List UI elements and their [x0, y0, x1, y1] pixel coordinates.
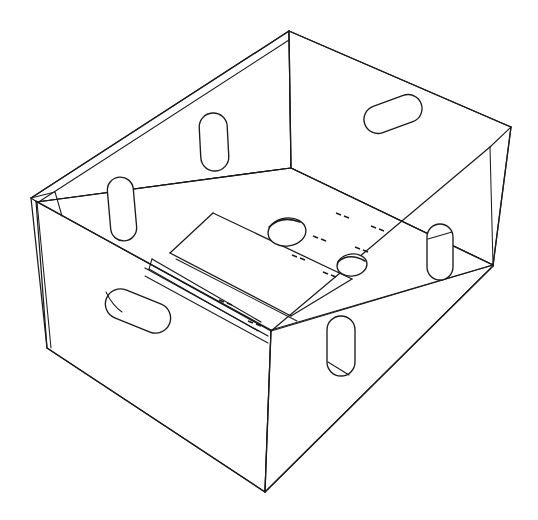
technical-drawing-canvas [0, 0, 538, 520]
slot-back-left-lower-icon [106, 176, 137, 242]
slot-front-right-icon [327, 316, 355, 376]
crate-isometric-drawing [0, 0, 538, 520]
slot-back-left-upper-icon [199, 112, 230, 171]
